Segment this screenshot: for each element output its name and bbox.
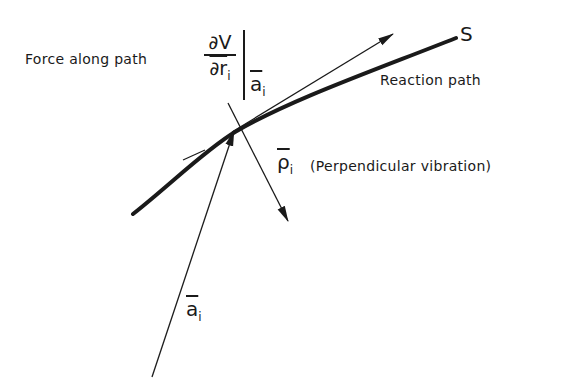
position-vector-label: ai: [186, 297, 202, 324]
reaction-path-label: Reaction path: [380, 72, 481, 88]
force-derivative-fraction: ∂V ∂ri: [204, 32, 236, 86]
derivative-numerator: ∂V: [209, 32, 232, 52]
evaluation-bar: [243, 30, 245, 100]
rho-label: ρi: [277, 150, 293, 177]
evaluated-at-label: ai: [250, 72, 266, 99]
position-vector-arrow: [152, 131, 234, 377]
fraction-bar: [204, 54, 236, 56]
reaction-path-curve: [133, 38, 456, 214]
perpendicular-vibration-label: (Perpendicular vibration): [310, 158, 491, 174]
path-end-label: S: [460, 22, 473, 46]
force-along-path-label: Force along path: [25, 51, 147, 67]
derivative-denominator: ∂ri: [210, 58, 231, 86]
